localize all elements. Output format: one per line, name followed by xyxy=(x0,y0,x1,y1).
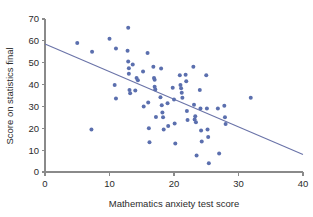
data-point xyxy=(133,88,137,92)
data-point xyxy=(191,65,195,69)
data-point xyxy=(186,118,190,122)
data-point xyxy=(249,96,253,100)
data-point xyxy=(146,51,150,55)
data-point xyxy=(160,103,164,107)
data-point xyxy=(184,79,188,83)
plot-canvas: 010203040506070 010203040 Mathematics an… xyxy=(0,0,313,217)
y-tick-label-50: 50 xyxy=(28,57,39,68)
y-tick-label-60: 60 xyxy=(28,35,39,46)
data-point xyxy=(142,104,146,108)
x-axis-title: Mathematics anxiety test score xyxy=(109,198,239,209)
x-tick-label-10: 10 xyxy=(104,178,115,189)
y-tick-label-0: 0 xyxy=(34,166,39,177)
data-point xyxy=(217,151,221,155)
data-point xyxy=(146,100,150,104)
data-point xyxy=(224,122,228,126)
data-point xyxy=(204,73,208,77)
data-point xyxy=(172,97,176,101)
data-point xyxy=(114,47,118,51)
x-axis-tick-labels: 010203040 xyxy=(42,178,308,189)
data-point xyxy=(185,109,189,113)
data-point xyxy=(75,41,79,45)
data-point xyxy=(153,87,157,91)
data-point xyxy=(166,124,170,128)
data-point xyxy=(179,86,183,90)
data-point xyxy=(160,111,164,115)
y-axis-title: Score on statistics final xyxy=(4,47,15,144)
data-point xyxy=(216,107,220,111)
data-point xyxy=(154,115,158,119)
data-point xyxy=(161,115,165,119)
data-point xyxy=(198,88,202,92)
y-tick-label-40: 40 xyxy=(28,79,39,90)
data-point xyxy=(147,126,151,130)
data-point xyxy=(184,73,188,77)
data-point xyxy=(162,127,166,131)
data-point xyxy=(153,78,157,82)
y-tick-label-70: 70 xyxy=(28,13,39,24)
data-point xyxy=(193,114,197,118)
data-point xyxy=(194,120,198,124)
data-point xyxy=(166,101,170,105)
data-point xyxy=(89,127,93,131)
data-point xyxy=(171,86,175,90)
x-tick-label-30: 30 xyxy=(233,178,244,189)
data-point xyxy=(200,139,204,143)
data-point xyxy=(158,95,162,99)
data-point xyxy=(199,128,203,132)
data-point xyxy=(114,97,118,101)
data-point xyxy=(126,49,130,53)
data-point xyxy=(147,140,151,144)
data-point xyxy=(180,91,184,95)
y-tick-label-10: 10 xyxy=(28,145,39,156)
data-point xyxy=(141,69,145,73)
data-point xyxy=(126,26,130,30)
x-tick-label-0: 0 xyxy=(42,178,47,189)
x-tick-label-20: 20 xyxy=(169,178,180,189)
data-point xyxy=(223,115,227,119)
data-point xyxy=(90,50,94,54)
data-point xyxy=(126,60,130,64)
data-point xyxy=(128,91,132,95)
data-point xyxy=(205,107,209,111)
data-point xyxy=(178,73,182,77)
data-point xyxy=(127,72,131,76)
y-tick-label-30: 30 xyxy=(28,101,39,112)
data-point xyxy=(206,127,210,131)
data-point xyxy=(180,96,184,100)
data-point xyxy=(195,154,199,158)
data-point xyxy=(173,142,177,146)
y-axis-tick-labels: 010203040506070 xyxy=(28,13,39,177)
data-point xyxy=(173,121,177,125)
data-point xyxy=(136,78,140,82)
data-point xyxy=(113,83,117,87)
x-tick-label-40: 40 xyxy=(298,178,309,189)
data-point xyxy=(108,37,112,41)
data-point xyxy=(192,103,196,107)
data-point xyxy=(207,161,211,165)
scatter-plot-figure: 010203040506070 010203040 Mathematics an… xyxy=(0,0,313,217)
data-point xyxy=(206,135,210,139)
data-point xyxy=(222,104,226,108)
data-point xyxy=(159,67,163,71)
data-point xyxy=(198,107,202,111)
data-point xyxy=(151,65,155,69)
data-point xyxy=(131,62,135,66)
data-point xyxy=(127,66,131,70)
y-tick-label-20: 20 xyxy=(28,123,39,134)
